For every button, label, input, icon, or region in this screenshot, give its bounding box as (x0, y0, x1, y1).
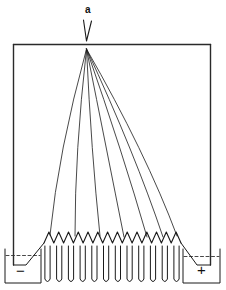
field-line (87, 49, 178, 236)
point-a-label: a (85, 5, 91, 15)
negative-sign-label: − (16, 263, 25, 278)
u-tube (104, 246, 109, 282)
field-lines (50, 49, 177, 237)
u-tubes (45, 246, 179, 282)
positive-sign-label: + (197, 262, 206, 277)
field-line (87, 49, 148, 237)
zigzag-chain (44, 232, 181, 243)
u-tube (162, 246, 167, 282)
electrolysis-field-diagram (0, 0, 226, 290)
u-tube (57, 246, 62, 282)
u-tube (80, 246, 85, 282)
field-line (87, 49, 101, 236)
u-tube (139, 246, 144, 282)
u-tube (45, 246, 50, 282)
field-line (50, 49, 87, 235)
u-tube (127, 246, 132, 282)
u-tube (68, 246, 73, 282)
v-tip-icon (84, 20, 92, 41)
field-line (87, 49, 164, 237)
wire-frame (14, 45, 211, 266)
u-tube (150, 246, 155, 282)
field-line (75, 49, 87, 236)
u-tube (115, 246, 120, 282)
u-tube (92, 246, 97, 282)
u-tube (174, 246, 179, 282)
